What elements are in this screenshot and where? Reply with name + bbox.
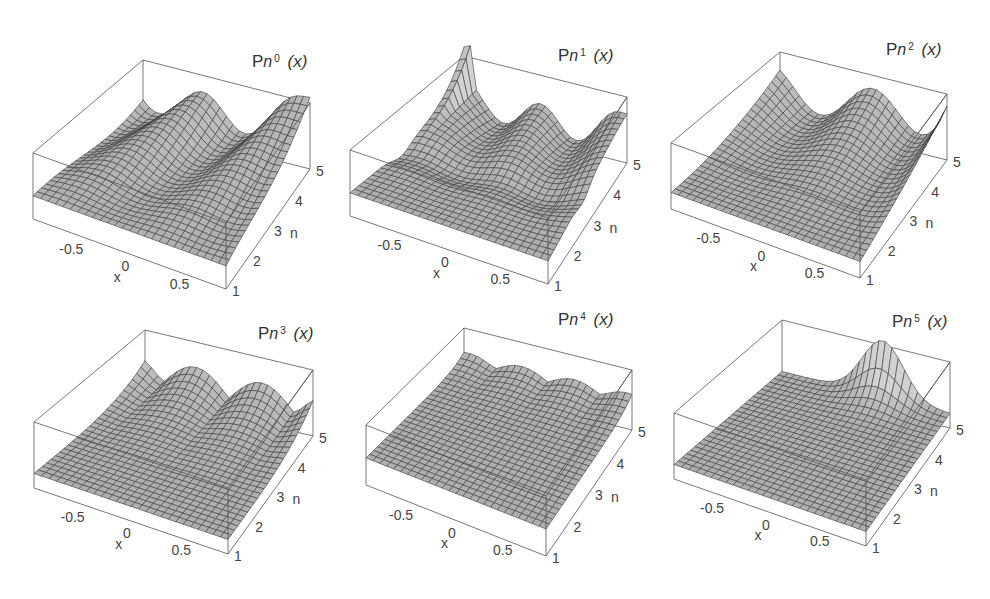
title-base: P xyxy=(258,324,269,343)
x-tick-label: -0.5 xyxy=(696,230,720,246)
x-tick-label: 0 xyxy=(758,248,766,264)
x-axis-label: x xyxy=(441,535,448,551)
surface-plot-svg xyxy=(660,300,990,599)
n-tick-label: 3 xyxy=(595,487,603,503)
x-tick-label: -0.5 xyxy=(61,509,85,525)
n-axis-label: n xyxy=(930,483,938,499)
x-tick-label: 0 xyxy=(448,525,456,541)
x-axis-label: x xyxy=(750,258,757,274)
title-sup: 1 xyxy=(580,47,586,58)
x-tick-label: 0 xyxy=(123,525,131,541)
x-axis-label: x xyxy=(433,265,440,281)
n-tick-label: 2 xyxy=(255,519,263,535)
n-tick-label: 2 xyxy=(574,248,582,264)
title-arg: (x) xyxy=(923,312,948,331)
surface-plot-1: Pn1 (x) -0.500.5x12345n xyxy=(330,0,660,300)
n-tick-label: 5 xyxy=(956,422,964,438)
n-tick-label: 4 xyxy=(613,187,621,203)
x-tick-label: -0.5 xyxy=(700,500,724,516)
n-axis-label: n xyxy=(926,215,934,231)
n-tick-label: 5 xyxy=(633,157,641,173)
plot-title: Pn2 (x) xyxy=(886,40,941,60)
n-tick-label: 1 xyxy=(232,283,240,299)
title-sup: 5 xyxy=(914,313,920,324)
n-tick-label: 2 xyxy=(574,519,582,535)
x-tick-label: 0 xyxy=(122,258,130,274)
x-tick-label: -0.5 xyxy=(378,237,402,253)
n-tick-label: 3 xyxy=(274,223,282,239)
surface-plot-svg xyxy=(0,0,330,300)
n-tick-label: 1 xyxy=(552,550,560,566)
x-tick-label: 0.5 xyxy=(493,542,512,558)
n-tick-label: 4 xyxy=(617,456,625,472)
surface-plot-5: Pn5 (x) -0.500.5x12345n xyxy=(660,300,990,599)
x-axis-label: x xyxy=(114,269,121,285)
x-tick-label: -0.5 xyxy=(59,241,83,257)
surface-plot-svg xyxy=(330,0,660,300)
x-tick-label: 0 xyxy=(441,254,449,270)
title-base: P xyxy=(886,40,897,59)
plot-title: Pn5 (x) xyxy=(892,312,947,332)
n-tick-label: 3 xyxy=(277,489,285,505)
x-tick-label: 0.5 xyxy=(810,533,829,549)
n-tick-label: 1 xyxy=(872,540,880,556)
n-tick-label: 5 xyxy=(638,424,646,440)
title-arg: (x) xyxy=(589,310,614,329)
title-arg: (x) xyxy=(289,324,314,343)
surface-plot-svg xyxy=(0,300,330,599)
title-base: P xyxy=(252,52,263,71)
title-arg: (x) xyxy=(589,46,614,65)
n-tick-label: 5 xyxy=(316,163,324,179)
n-axis-label: n xyxy=(290,225,298,241)
title-sub: n xyxy=(903,313,912,330)
title-sup: 2 xyxy=(908,41,914,52)
n-tick-label: 5 xyxy=(953,154,961,170)
n-tick-label: 4 xyxy=(935,452,943,468)
title-sup: 3 xyxy=(280,325,286,336)
x-tick-label: 0.5 xyxy=(805,265,824,281)
x-tick-label: 0.5 xyxy=(170,276,189,292)
box-edge-back xyxy=(464,328,632,370)
n-tick-label: 2 xyxy=(253,253,261,269)
n-tick-label: 1 xyxy=(234,548,242,564)
n-tick-label: 4 xyxy=(931,184,939,200)
n-tick-label: 2 xyxy=(888,243,896,259)
n-tick-label: 4 xyxy=(295,193,303,209)
n-axis-label: n xyxy=(293,491,301,507)
n-tick-label: 1 xyxy=(866,272,874,288)
x-axis-label: x xyxy=(754,527,761,543)
title-sup: 0 xyxy=(274,53,280,64)
n-tick-label: 3 xyxy=(910,213,918,229)
surface-plot-4: Pn4 (x) -0.500.5x12345n xyxy=(330,300,660,599)
title-sub: n xyxy=(263,53,272,70)
title-base: P xyxy=(558,310,569,329)
plot-title: Pn3 (x) xyxy=(258,324,313,344)
title-sub: n xyxy=(897,41,906,58)
n-tick-label: 4 xyxy=(298,460,306,476)
n-tick-label: 3 xyxy=(594,218,602,234)
n-tick-label: 3 xyxy=(914,481,922,497)
n-tick-label: 5 xyxy=(319,430,327,446)
n-tick-label: 1 xyxy=(554,278,562,294)
n-axis-label: n xyxy=(611,489,619,505)
x-axis-label: x xyxy=(115,536,122,552)
surface-plot-2: Pn2 (x) -0.500.5x12345n xyxy=(660,0,990,300)
title-base: P xyxy=(558,46,569,65)
title-sub: n xyxy=(569,47,578,64)
title-base: P xyxy=(892,312,903,331)
x-tick-label: 0.5 xyxy=(172,542,191,558)
title-arg: (x) xyxy=(917,40,942,59)
x-tick-label: 0 xyxy=(762,517,770,533)
plot-title: Pn4 (x) xyxy=(558,310,613,330)
plot-title: Pn1 (x) xyxy=(558,46,613,66)
x-tick-label: -0.5 xyxy=(389,507,413,523)
title-sup: 4 xyxy=(580,311,586,322)
plot-title: Pn0 (x) xyxy=(252,52,307,72)
n-axis-label: n xyxy=(610,220,618,236)
n-tick-label: 2 xyxy=(893,511,901,527)
surface-plot-0: Pn0 (x) -0.500.5x12345n xyxy=(0,0,330,300)
title-sub: n xyxy=(269,325,278,342)
title-sub: n xyxy=(569,311,578,328)
x-tick-label: 0.5 xyxy=(491,271,510,287)
surface-plot-3: Pn3 (x) -0.500.5x12345n xyxy=(0,300,330,599)
